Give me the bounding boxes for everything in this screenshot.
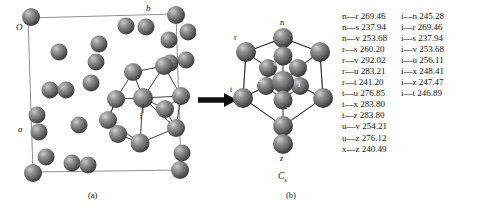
- distance-row: n—s 237.94: [342, 22, 387, 33]
- panel-a-caption: (a): [88, 190, 97, 200]
- distance-row: i—x 248.41: [401, 66, 444, 77]
- panel-b-cluster: n r s v u i t x z Cs: [228, 8, 338, 213]
- distance-row: n—r 269.46: [342, 11, 387, 22]
- distance-row: i—r 269.46: [401, 22, 444, 33]
- distance-row: u—v 254.21: [342, 121, 387, 132]
- point-group-label: Cs: [278, 171, 287, 184]
- atom-label-r: r: [234, 33, 237, 42]
- atom-label-z: z: [279, 154, 284, 163]
- axis-label-a: a: [18, 124, 23, 134]
- distance-row: t—x 283.80: [342, 99, 387, 110]
- axis-label-b: b: [146, 3, 151, 13]
- distance-row: t—z 283.80: [342, 110, 387, 121]
- atom-label-x: x: [286, 104, 290, 113]
- distance-row: r—t 241.20: [342, 77, 387, 88]
- cluster-center-label-a: i: [140, 112, 142, 121]
- distance-row: i—z 247.47: [401, 77, 444, 88]
- distance-row: n—v 253.68: [342, 33, 387, 44]
- distance-column-right: i—n 245.28 i—r 269.46 i—s 237.94 i—v 253…: [401, 11, 444, 161]
- distance-row: x—z 240.49: [342, 144, 387, 155]
- point-group-subscript: s: [284, 176, 287, 184]
- atom-label-v: v: [273, 59, 277, 68]
- distance-row: i—s 237.94: [401, 33, 444, 44]
- figure-root: O a b i (a): [0, 0, 480, 213]
- distance-row: i—t 246.89: [401, 88, 444, 99]
- cluster-drawing: n r s v u i t x z: [228, 8, 338, 168]
- distance-row: i—u 256.11: [401, 55, 444, 66]
- distance-row: i—n 245.28: [401, 11, 444, 22]
- distance-row: r—u 283.21: [342, 66, 387, 77]
- atom-label-u: u: [258, 75, 262, 84]
- atom-spheres-cell: [22, 6, 196, 182]
- atom-label-n: n: [280, 18, 284, 27]
- axis-label-origin: O: [16, 22, 23, 32]
- distance-column-left: n—r 269.46 n—s 237.94 n—v 253.68 r—s 260…: [342, 11, 387, 161]
- atom-label-s: s: [272, 43, 275, 52]
- distance-row: u—z 276.12: [342, 133, 387, 144]
- atom-label-t: t: [230, 85, 233, 94]
- cluster-atom-spheres: [233, 28, 333, 154]
- panel-a-unit-cell: O a b i: [0, 0, 196, 213]
- distance-row: t—u 276.85: [342, 88, 387, 99]
- distance-row: r—v 292.02: [342, 55, 387, 66]
- unit-cell-drawing: [0, 0, 196, 190]
- distance-row: r—s 260.20: [342, 44, 387, 55]
- panel-b-caption: (b): [286, 190, 296, 200]
- distance-row: i—v 253.68: [401, 44, 444, 55]
- interatomic-distance-table: n—r 269.46 n—s 237.94 n—v 253.68 r—s 260…: [342, 11, 480, 161]
